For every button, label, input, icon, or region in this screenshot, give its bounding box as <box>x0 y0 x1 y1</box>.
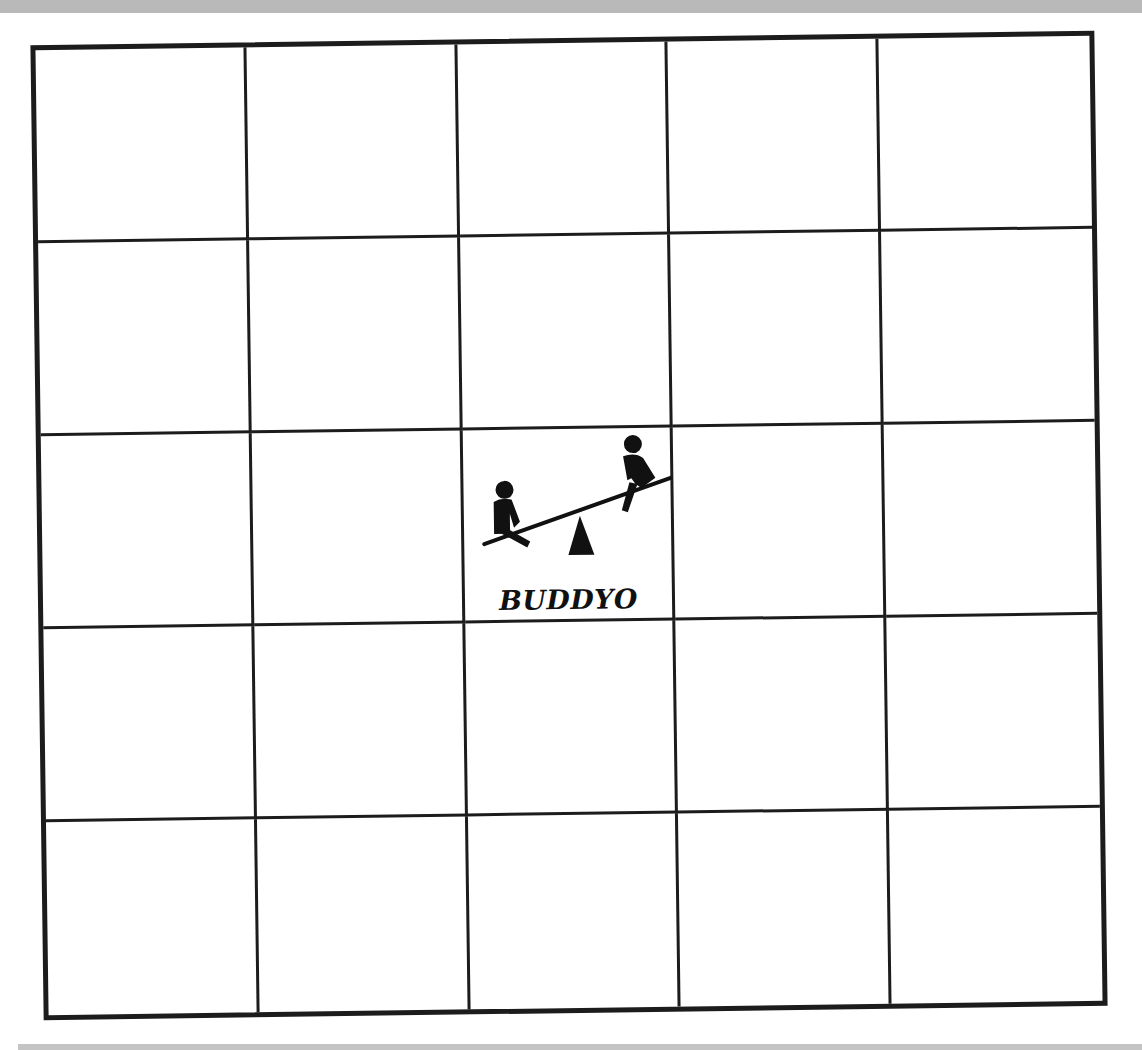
grid-cell-r1-c2 <box>460 235 673 431</box>
grid-cell-r2-c1 <box>252 430 465 626</box>
grid-cell-r0-c0 <box>35 47 248 243</box>
grid-card: BUDDYO <box>30 31 1107 1020</box>
grid-cell-r3-c2 <box>465 621 678 817</box>
grid-cell-r2-c4 <box>884 422 1097 618</box>
grid-cell-r0-c3 <box>668 39 881 235</box>
grid-cell-r4-c0 <box>46 819 259 1015</box>
grid-cell-r4-c4 <box>889 808 1102 1004</box>
grid-cell-r1-c0 <box>38 240 251 436</box>
center-logo-cell: BUDDYO <box>462 428 675 624</box>
grid-cell-r1-c1 <box>249 237 462 433</box>
grid-cell-r3-c1 <box>254 623 467 819</box>
logo-label: BUDDYO <box>464 583 672 617</box>
scan-top-band <box>0 0 1142 13</box>
grid-cell-r1-c4 <box>881 229 1094 425</box>
grid-cell-r0-c1 <box>246 44 459 240</box>
grid-cell-r4-c2 <box>468 814 681 1010</box>
seesaw-with-two-children-icon <box>470 428 672 571</box>
grid-cell-r1-c3 <box>670 232 883 428</box>
grid-cell-r2-c3 <box>673 425 886 621</box>
grid-cell-r3-c3 <box>676 618 889 814</box>
grid-cell-r3-c4 <box>886 615 1099 811</box>
grid-cell-r4-c3 <box>678 811 891 1007</box>
grid-cell-r4-c1 <box>257 816 470 1012</box>
grid-cell-r3-c0 <box>43 626 256 822</box>
grid-cell-r0-c2 <box>457 42 670 238</box>
grid-cell-r2-c0 <box>41 433 254 629</box>
scan-bottom-band <box>18 1044 1142 1050</box>
grid-cell-r0-c4 <box>879 36 1092 232</box>
